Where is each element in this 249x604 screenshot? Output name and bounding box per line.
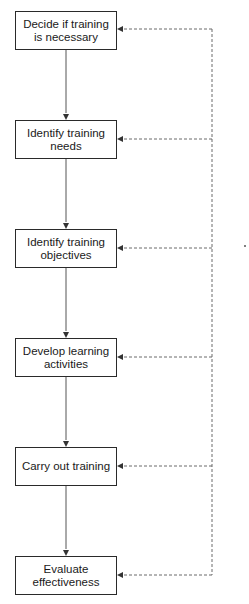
step-label: Identify training needs [16, 127, 116, 153]
step-carry-out-training: Carry out training [15, 447, 117, 486]
step-label: Evaluate effectiveness [16, 563, 116, 589]
scan-dot-artifact [244, 245, 246, 247]
step-label: Carry out training [20, 460, 112, 473]
feedback-arrowheads [117, 26, 123, 578]
step-identify-training-objectives: Identify training objectives [15, 229, 117, 268]
step-identify-training-needs: Identify training needs [15, 120, 117, 159]
step-label: Decide if training is necessary [16, 18, 116, 44]
step-label: Develop learning activities [16, 345, 116, 371]
feedback-loop [123, 29, 212, 575]
step-decide-if-training-necessary: Decide if training is necessary [15, 11, 117, 50]
step-develop-learning-activities: Develop learning activities [15, 338, 117, 377]
connector-layer [0, 0, 249, 604]
step-label: Identify training objectives [16, 236, 116, 262]
step-evaluate-effectiveness: Evaluate effectiveness [15, 556, 117, 595]
